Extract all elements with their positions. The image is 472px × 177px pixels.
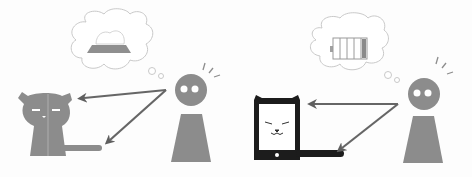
right-panel bbox=[254, 13, 453, 163]
arrows bbox=[84, 90, 166, 140]
arrows bbox=[314, 104, 398, 148]
person-icon bbox=[171, 63, 220, 162]
arrow-to-tail bbox=[110, 90, 166, 140]
cat-icon bbox=[18, 92, 102, 156]
battery-icon bbox=[330, 38, 367, 59]
left-panel bbox=[18, 9, 220, 162]
illustration bbox=[0, 0, 472, 177]
arrow-to-cat bbox=[84, 90, 166, 98]
person-icon bbox=[403, 57, 453, 163]
surprise-lines-icon bbox=[436, 57, 453, 74]
surprise-lines-icon bbox=[203, 63, 220, 77]
arrow-to-cable bbox=[342, 104, 398, 148]
